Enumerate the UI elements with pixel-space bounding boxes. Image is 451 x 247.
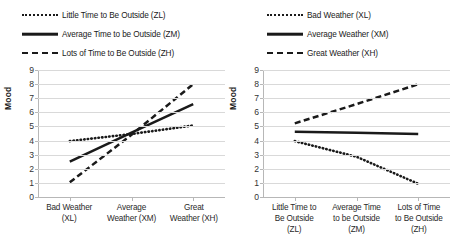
- y-tick-label-right-0: 0: [243, 192, 259, 202]
- y-tick-label-left-0: 0: [18, 192, 34, 202]
- gridline: [38, 169, 225, 170]
- y-axis-label-left: Mood: [3, 87, 13, 110]
- y-tick-label-left-9: 9: [18, 65, 34, 75]
- gridline: [263, 70, 450, 71]
- y-tick-label-right-8: 8: [243, 79, 259, 89]
- y-tick-mark: [35, 197, 38, 198]
- y-tick-mark: [260, 98, 263, 99]
- series-line-solid: [295, 132, 418, 134]
- y-tick-mark: [35, 98, 38, 99]
- legend-item-left-2: Lots of Time to Be Outside (ZH): [0, 44, 225, 62]
- gridline: [38, 126, 225, 127]
- y-tick-label-right-2: 2: [243, 164, 259, 174]
- legend-item-label: Little Time to Be Outside (ZL): [62, 11, 165, 20]
- y-tick-mark: [35, 112, 38, 113]
- dashed-line-swatch-icon: [267, 48, 303, 58]
- gridline: [38, 155, 225, 156]
- gridline: [38, 70, 225, 71]
- y-tick-label-left-4: 4: [18, 136, 34, 146]
- dashed-line-swatch-icon: [22, 48, 58, 58]
- y-tick-mark: [35, 126, 38, 127]
- y-tick-mark: [260, 112, 263, 113]
- gridline: [263, 126, 450, 127]
- y-tick-mark: [260, 183, 263, 184]
- chart-panel-right: Bad Weather (XL)Average Weather (XM)Grea…: [225, 0, 450, 247]
- y-tick-mark: [260, 169, 263, 170]
- y-tick-mark: [260, 126, 263, 127]
- y-tick-label-left-7: 7: [18, 93, 34, 103]
- y-tick-label-left-3: 3: [18, 150, 34, 160]
- series-lines-right: [263, 70, 450, 198]
- series-line-dashed: [295, 84, 418, 123]
- y-tick-mark: [35, 141, 38, 142]
- y-tick-mark: [260, 155, 263, 156]
- x-tick-mark: [132, 198, 133, 201]
- x-axis-labels-right: Little Time toBe Outside(ZL)Average Time…: [263, 202, 450, 235]
- y-tick-label-right-1: 1: [243, 178, 259, 188]
- x-tick-mark: [295, 198, 296, 201]
- x-axis-label-right-0: Little Time toBe Outside(ZL): [263, 202, 325, 235]
- gridline: [38, 84, 225, 85]
- x-axis-label-left-0: Bad Weather(XL): [38, 202, 100, 224]
- x-axis-label-right-1: Average Timeto be Outside(ZM): [325, 202, 387, 235]
- legend-item-label: Bad Weather (XL): [307, 11, 371, 20]
- x-tick-mark: [70, 198, 71, 201]
- dotted-line-swatch-icon: [267, 10, 303, 20]
- x-tick-mark: [357, 198, 358, 201]
- y-tick-mark: [35, 84, 38, 85]
- y-tick-label-left-8: 8: [18, 79, 34, 89]
- gridline: [263, 183, 450, 184]
- legend-left: Little Time to Be Outside (ZL)Average Ti…: [0, 6, 225, 62]
- legend-item-label: Average Time to be Outside (ZM): [62, 30, 180, 39]
- gridline: [38, 112, 225, 113]
- y-tick-mark: [260, 70, 263, 71]
- plot-area-right: [263, 70, 450, 198]
- legend-item-label: Average Weather (XM): [307, 30, 388, 39]
- y-tick-mark: [260, 84, 263, 85]
- solid-line-swatch-icon: [267, 29, 303, 39]
- x-tick-mark: [418, 198, 419, 201]
- y-axis-ticks-left: 9876543210: [18, 62, 34, 247]
- x-axis-label-left-1: AverageWeather (XM): [100, 202, 162, 224]
- figure-container: Little Time to Be Outside (ZL)Average Ti…: [0, 0, 451, 247]
- y-tick-mark: [35, 155, 38, 156]
- y-axis-ticks-right: 9876543210: [243, 62, 259, 247]
- y-tick-label-left-1: 1: [18, 178, 34, 188]
- y-tick-label-right-3: 3: [243, 150, 259, 160]
- gridline: [263, 155, 450, 156]
- chart-right: Mood 9876543210 Little Time toBe Outside…: [225, 62, 450, 247]
- gridline: [263, 98, 450, 99]
- gridline: [263, 112, 450, 113]
- legend-item-label: Lots of Time to Be Outside (ZH): [62, 49, 174, 58]
- x-axis-label-right-2: Lots of Timeto Be Outside(ZH): [388, 202, 450, 235]
- series-line-dotted: [295, 141, 418, 184]
- gridline: [263, 141, 450, 142]
- dotted-line-swatch-icon: [22, 10, 58, 20]
- legend-item-left-0: Little Time to Be Outside (ZL): [0, 6, 225, 24]
- solid-line-swatch-icon: [22, 29, 58, 39]
- series-lines-left: [38, 70, 225, 198]
- y-tick-mark: [260, 141, 263, 142]
- y-tick-mark: [35, 70, 38, 71]
- y-axis-label-right: Mood: [228, 87, 238, 110]
- y-tick-mark: [35, 169, 38, 170]
- x-tick-mark: [193, 198, 194, 201]
- plot-area-left: [38, 70, 225, 198]
- gridline: [263, 84, 450, 85]
- gridline: [38, 183, 225, 184]
- legend-item-left-1: Average Time to be Outside (ZM): [0, 25, 225, 43]
- y-tick-label-left-2: 2: [18, 164, 34, 174]
- legend-right: Bad Weather (XL)Average Weather (XM)Grea…: [225, 6, 450, 62]
- gridline: [38, 98, 225, 99]
- x-axis-labels-left: Bad Weather(XL)AverageWeather (XM)GreatW…: [38, 202, 225, 224]
- gridline: [263, 169, 450, 170]
- y-tick-label-left-6: 6: [18, 107, 34, 117]
- y-tick-label-right-4: 4: [243, 136, 259, 146]
- y-tick-mark: [35, 183, 38, 184]
- chart-left: Mood 9876543210 Bad Weather(XL)AverageWe…: [0, 62, 225, 247]
- x-axis-label-left-2: GreatWeather (XH): [163, 202, 225, 224]
- legend-item-right-1: Average Weather (XM): [225, 25, 450, 43]
- legend-item-label: Great Weather (XH): [307, 49, 378, 58]
- y-tick-mark: [260, 197, 263, 198]
- legend-item-right-0: Bad Weather (XL): [225, 6, 450, 24]
